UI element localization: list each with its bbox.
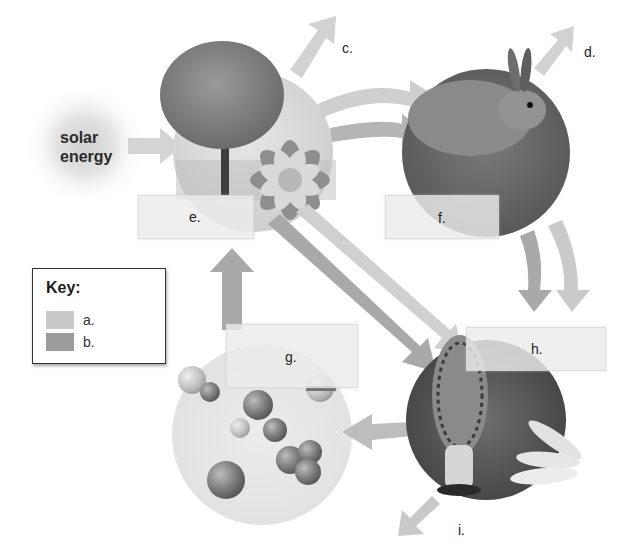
arrow-label-c: c.	[342, 40, 353, 56]
legend-title: Key:	[46, 279, 81, 297]
label-box-e[interactable]: e.	[138, 195, 254, 239]
arrow-nutrients-to-producers	[210, 248, 254, 330]
legend-label-b: b.	[83, 334, 95, 350]
arrow-decomposers-to-nutrients	[342, 414, 412, 450]
legend-swatch-a	[46, 311, 74, 329]
arrow-consumers-to-decomposers-a	[518, 230, 552, 312]
label-box-h[interactable]: h.	[466, 327, 606, 371]
label-box-f[interactable]: f.	[385, 195, 499, 239]
solar-energy-label: solar energy	[60, 128, 112, 166]
label-g: g.	[285, 349, 297, 365]
label-e: e.	[189, 209, 201, 225]
legend-swatch-b	[46, 333, 74, 351]
label-box-g[interactable]: g.	[226, 324, 358, 388]
arrow-consumers-to-decomposers-b	[548, 220, 590, 312]
arrow-i	[398, 496, 440, 536]
label-h: h.	[531, 341, 543, 357]
legend-label-a: a.	[83, 312, 95, 328]
arrow-label-i: i.	[458, 522, 465, 538]
ecosystem-diagram: solar energy c. d. i. e. f. g. h. Key: a…	[0, 0, 628, 551]
solar-energy-line-2: energy	[60, 147, 112, 166]
arrow-c	[290, 16, 336, 78]
label-f: f.	[438, 210, 446, 226]
arrow-d	[534, 26, 574, 76]
legend-key: Key: a. b.	[32, 268, 166, 364]
solar-energy-line-1: solar	[60, 128, 112, 147]
arrow-label-d: d.	[584, 44, 596, 60]
